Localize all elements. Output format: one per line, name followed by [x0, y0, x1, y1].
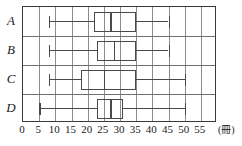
- x-tick-label-10: 10: [49, 124, 60, 135]
- median-d: [110, 99, 112, 119]
- cap-max-d: [185, 103, 187, 115]
- cap-min-d: [39, 103, 41, 115]
- plot-area: [22, 6, 216, 122]
- boxplot-d: [23, 7, 215, 121]
- x-tick-label-35: 35: [130, 124, 141, 135]
- x-tick-label-55: 55: [194, 124, 205, 135]
- x-tick-label-0: 0: [19, 124, 25, 135]
- x-tick-label-25: 25: [97, 124, 108, 135]
- x-tick-label-30: 30: [114, 124, 125, 135]
- whisker-left-d: [39, 108, 97, 110]
- category-label-b: B: [2, 43, 20, 56]
- box-group: [23, 7, 215, 121]
- x-tick-label-50: 50: [178, 124, 189, 135]
- x-tick-label-5: 5: [35, 124, 41, 135]
- category-label-a: A: [2, 14, 20, 27]
- boxplot-chart: ABCD 0510152025303540455055 (冊): [0, 0, 242, 146]
- x-tick-label-20: 20: [81, 124, 92, 135]
- whisker-right-d: [123, 108, 184, 110]
- category-label-d: D: [2, 101, 20, 114]
- x-tick-label-40: 40: [146, 124, 157, 135]
- x-axis-unit-label: (冊): [218, 124, 235, 135]
- x-tick-label-45: 45: [162, 124, 173, 135]
- x-tick-label-15: 15: [65, 124, 76, 135]
- category-label-c: C: [2, 72, 20, 85]
